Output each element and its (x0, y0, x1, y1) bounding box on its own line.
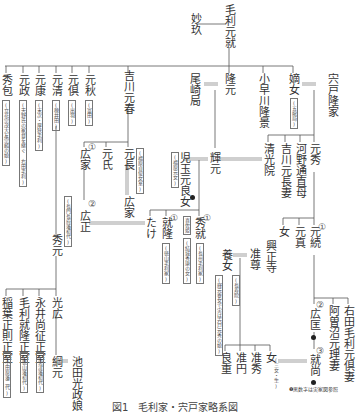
person-hidemoto: 秀元 (50, 234, 62, 256)
person-takamoto: 隆元 (223, 73, 235, 95)
person-motoyasu: 元康 (33, 74, 45, 96)
note-motoyasu: (末次・厚狭毛利) (35, 100, 43, 151)
person-obasatsubone: 尾崎局 (188, 73, 200, 106)
note-hidenari: (長州毛利家) (196, 243, 204, 284)
person-terumoto: 輝元 (208, 152, 220, 174)
note-yojo2: (輝元養女で実は宍戸元秀の娘) (215, 275, 223, 356)
person-yojo: 養女 (220, 249, 232, 271)
note-chakujo: (五龍局) (290, 98, 298, 129)
person-kono-michinao-haha: 河野通直母 (294, 143, 306, 198)
family-tree-diagram: 妙玖 毛利元就 秀包 (立花宗茂大友宗麟の娘) 元政 (天野氏の家督を継ぐ 右田… (0, 0, 358, 417)
person-ryoju: 良重 (219, 352, 231, 374)
marker-dot (311, 335, 316, 340)
number-hiromasa: ② (88, 199, 96, 209)
person-motoaki: 元秋 (83, 74, 95, 96)
person-motonari: 毛利元就 (223, 4, 235, 48)
person-hiroie2: 広家 (122, 196, 134, 218)
number-hiroie1: ① (88, 142, 96, 152)
person-junson: 准尊 (248, 248, 260, 270)
person-koshoji: 興正寺 (264, 240, 276, 273)
number-hidenari: ① (203, 213, 211, 223)
note-motokiyo: (穂井田) (52, 100, 60, 131)
person-motomasa: 元政 (17, 74, 29, 96)
person-kodama-daughter: 児玉元良女 (178, 152, 190, 207)
note-naritaka: (徳山毛利家) (162, 243, 170, 284)
note-hidemoto: (長門長府藩初代) (64, 196, 72, 247)
person-ikeda-musume: 池田光政娘 (70, 356, 82, 411)
note-kodama: (福原元女) (171, 152, 179, 188)
note-motomasa: (天野氏の家督を継ぐ 右田毛利) (19, 100, 27, 187)
note-inaba: (小田原藩二代) (3, 352, 11, 398)
note-mototomo: (出羽) (68, 100, 76, 126)
person-shishido-takaie: 宍戸隆家 (326, 73, 338, 117)
note-mori: (徳山藩初代) (20, 352, 28, 393)
note-motonaga: (福原貞俊女室) (136, 148, 144, 194)
hidenari-wife: 喜佐姫 (183, 216, 191, 235)
note-yojo: (長寿院) (232, 275, 240, 306)
person-migita-tsuma: 右田毛利元倶妻 (342, 305, 354, 382)
person-hidekane: 秀包 (0, 74, 12, 96)
person-hiromasa2: 広匡 (308, 308, 320, 330)
person-kikkawa-motoharu: 吉川元春 (122, 70, 134, 114)
number-mototsugu: ① (318, 222, 326, 232)
note-hidekane: (立花宗茂大友宗麟の娘) (2, 100, 10, 166)
figure-caption: 図1 毛利家・宍戸家略系図 (112, 399, 238, 414)
person-chakujo: 嫡女 (287, 73, 299, 95)
number-naritaka: ① (170, 213, 178, 223)
person-myokyu: 妙玖 (189, 13, 201, 35)
person-motohide: 元秀 (308, 143, 320, 165)
person-motonaga: 元長 (122, 148, 134, 170)
legend: ❶黒数字は実家図参照 (289, 385, 338, 392)
person-seikoin: 清光院 (262, 143, 274, 176)
note-onna2: (三女・生) (273, 356, 279, 390)
person-motouji: 元氏 (100, 148, 112, 170)
person-kikkawa-motonaga-tsuma: 吉川元長妻 (279, 143, 291, 198)
person-aso-tsuma: 阿曽沼元理妻 (327, 305, 339, 371)
person-onna1: 女 (277, 226, 289, 237)
person-jun-en: 准円 (234, 352, 246, 374)
note-hidenari-wife: (結城秀康の女) (183, 238, 191, 284)
person-hiromasa: 広正 (78, 210, 90, 232)
person-mitsuhiro: 光広 (50, 297, 62, 319)
marker-dot (190, 195, 195, 200)
person-kobayakawa: 小早川隆景 (257, 73, 269, 128)
person-motokiyo: 元清 (50, 74, 62, 96)
person-motozane: 元真 (293, 226, 305, 248)
note-nagai: (宮津藩初代) (36, 352, 44, 393)
person-mototomo: 元倶 (66, 74, 78, 96)
note-motoaki: (富田) (85, 100, 93, 126)
person-take: たけ (144, 217, 156, 239)
tree-lines (0, 0, 358, 417)
person-tsunamoto: 綱元 (50, 356, 62, 378)
person-naritaka2: 就尚 (308, 354, 320, 376)
person-junshu: 准秀 (249, 352, 261, 374)
